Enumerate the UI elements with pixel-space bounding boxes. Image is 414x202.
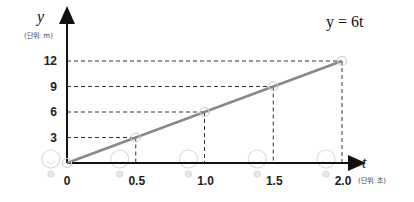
y-tick-label: 9: [50, 80, 57, 94]
y-axis-label: y: [35, 8, 45, 26]
x-tick-label: 0.5: [128, 174, 145, 188]
y-tick-label: 6: [50, 105, 57, 119]
x-tick-label: 2.0: [335, 174, 352, 188]
y-tick-label: 12: [44, 54, 58, 68]
y-tick-label: 3: [50, 131, 57, 145]
x-tick-label: 1.0: [197, 174, 214, 188]
x-tick-label: 0: [64, 174, 71, 188]
y-axis-unit: (단위: m): [24, 31, 53, 40]
equation-label: y = 6t: [326, 13, 364, 31]
x-axis-label: t: [362, 154, 367, 171]
x-axis-unit: (단위: 초): [358, 176, 386, 185]
position-time-graph: 3691200.51.01.52.0 y (단위: m) t (단위: 초) y…: [0, 0, 414, 202]
x-tick-label: 1.5: [266, 174, 283, 188]
character-icon: [42, 150, 60, 177]
